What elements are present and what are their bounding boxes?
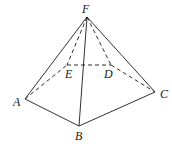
label-F: F <box>81 2 90 16</box>
edge-BC <box>79 92 155 126</box>
label-A: A <box>12 95 21 109</box>
edge-FA <box>25 17 87 99</box>
edge-AB <box>25 99 79 126</box>
edge-AE <box>25 65 67 99</box>
label-E: E <box>64 67 73 81</box>
edge-DC <box>111 65 155 92</box>
pyramid-diagram: F E D A B C <box>0 0 172 146</box>
edge-FC <box>87 17 155 92</box>
label-D: D <box>103 67 113 81</box>
edge-FD <box>87 17 111 65</box>
label-C: C <box>160 87 169 101</box>
label-B: B <box>75 129 83 143</box>
